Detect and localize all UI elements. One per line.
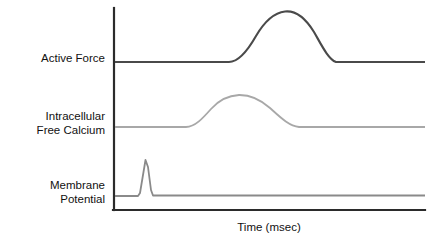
physiology-trace-figure: Active Force Intracellular Free Calcium … — [0, 0, 438, 247]
trace-label-intracellular-free-calcium: Intracellular Free Calcium — [0, 110, 105, 137]
trace-membrane-potential — [115, 160, 425, 196]
trace-label-membrane-potential: Membrane Potential — [0, 179, 105, 206]
x-axis-title: Time (msec) — [113, 221, 425, 233]
trace-intracellular-free-calcium — [115, 95, 425, 127]
trace-label-active-force: Active Force — [0, 52, 105, 66]
trace-active-force — [115, 11, 425, 62]
